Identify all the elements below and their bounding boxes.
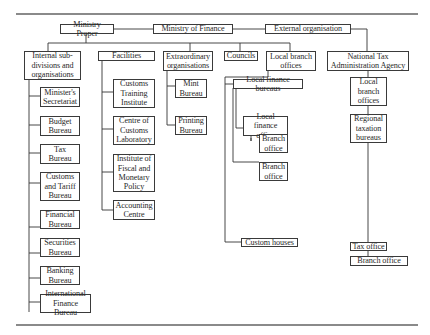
branch-office-box: Branch office bbox=[259, 162, 288, 181]
local-finance-office-box: Local finance office bbox=[243, 116, 288, 136]
national-tax-agency-box: National Tax Administration Agency bbox=[327, 51, 409, 71]
extraordinary-organisations-box: Extraordinary organisations bbox=[163, 51, 213, 71]
regional-taxation-bureaus-box: Regional taxation bureaus bbox=[350, 114, 387, 143]
printing-bureau-box: Printing Bureau bbox=[175, 116, 207, 135]
councils-box: Councils bbox=[224, 51, 258, 61]
nta-branch-office-box: Branch office bbox=[350, 256, 408, 266]
ministers-secretariat-box: Minister's Secretariat bbox=[40, 87, 80, 107]
tax-office-box: Tax office bbox=[350, 242, 387, 251]
centre-of-customs-laboratory-box: Centre of Customs Laboratory bbox=[113, 116, 155, 145]
banking-bureau-box: Banking Bureau bbox=[40, 266, 80, 285]
accounting-centre-box: Accounting Centre bbox=[113, 200, 155, 220]
customs-training-institute-box: Customs Training Institute bbox=[113, 79, 155, 108]
branch-office-box: Branch office bbox=[259, 134, 288, 153]
institute-fiscal-monetary-policy-box: Institute of Fiscal and Monetary Policy bbox=[113, 154, 155, 192]
tax-bureau-box: Tax Bureau bbox=[40, 144, 80, 164]
local-finance-bureaus-box: Local finance bureaus bbox=[233, 79, 303, 89]
customs-tariff-bureau-box: Customs and Tariff Bureau bbox=[40, 172, 80, 201]
facilities-box: Facilities bbox=[98, 51, 155, 61]
mint-bureau-box: Mint Bureau bbox=[175, 79, 207, 98]
international-finance-bureau-box: International Finance Bureau bbox=[40, 294, 91, 313]
financial-bureau-box: Financial Bureau bbox=[40, 210, 80, 229]
org-chart-canvas: Ministry Proper Ministry of Finance Exte… bbox=[0, 0, 430, 335]
securities-bureau-box: Securities Bureau bbox=[40, 238, 80, 257]
nta-local-branch-offices-box: Local branch offices bbox=[350, 77, 387, 106]
ministry-of-finance-box: Ministry of Finance bbox=[153, 24, 233, 34]
local-branch-offices-box: Local branch offices bbox=[266, 51, 316, 71]
external-organisation-box: External organisation bbox=[265, 24, 351, 34]
internal-subdivisions-box: Internal sub- divisions and organisation… bbox=[24, 51, 81, 80]
custom-houses-box: Custom houses bbox=[241, 238, 298, 247]
budget-bureau-box: Budget Bureau bbox=[40, 116, 80, 136]
ministry-proper-box: Ministry Proper bbox=[60, 24, 114, 34]
